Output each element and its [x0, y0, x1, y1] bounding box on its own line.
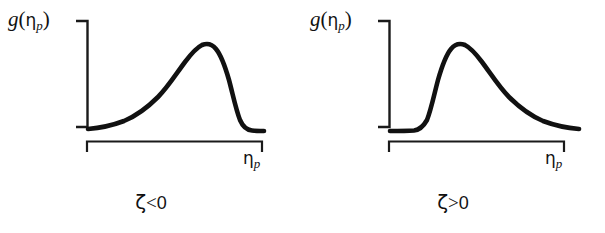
y-axis-label-close-paren: ) — [345, 7, 352, 31]
eta-symbol: η — [243, 148, 254, 168]
caption-left: ζ<0 — [0, 190, 302, 214]
eta-symbol: η — [545, 148, 556, 168]
relation-operator: < — [146, 192, 157, 213]
y-axis-label-close-paren: ) — [43, 7, 50, 31]
caption-right: ζ>0 — [302, 190, 604, 214]
y-axis-label-open-paren: ( — [19, 7, 26, 31]
zeta-symbol: ζ — [135, 190, 146, 214]
panel-zeta-negative: g(ηp) ηp ζ<0 — [0, 0, 302, 233]
eta-subscript: p — [254, 156, 261, 171]
y-axis-label-right: g(ηp) — [310, 9, 352, 32]
y-axis-label-function: g — [310, 7, 321, 31]
zeta-symbol: ζ — [437, 190, 448, 214]
caption-value: 0 — [459, 193, 469, 213]
x-axis-bracket-left — [87, 142, 262, 153]
eta-subscript: p — [556, 156, 563, 171]
eta-symbol: η — [328, 10, 339, 30]
panel-zeta-positive: g(ηp) ηp ζ>0 — [302, 0, 604, 233]
y-axis-label-open-paren: ( — [321, 7, 328, 31]
y-axis-bracket-left — [76, 21, 88, 127]
relation-operator: > — [448, 192, 459, 213]
x-axis-bracket-right — [389, 142, 564, 153]
x-axis-label-right: ηp — [545, 150, 562, 170]
caption-value: 0 — [157, 193, 167, 213]
curve-zeta-positive — [390, 44, 579, 131]
curve-zeta-negative — [88, 44, 264, 131]
figure-container: g(ηp) ηp ζ<0 g(ηp) ηp ζ>0 — [0, 0, 605, 233]
eta-symbol: η — [26, 10, 37, 30]
y-axis-label-function: g — [8, 7, 19, 31]
y-axis-bracket-right — [378, 21, 390, 127]
x-axis-label-left: ηp — [243, 150, 260, 170]
y-axis-label-left: g(ηp) — [8, 9, 50, 32]
